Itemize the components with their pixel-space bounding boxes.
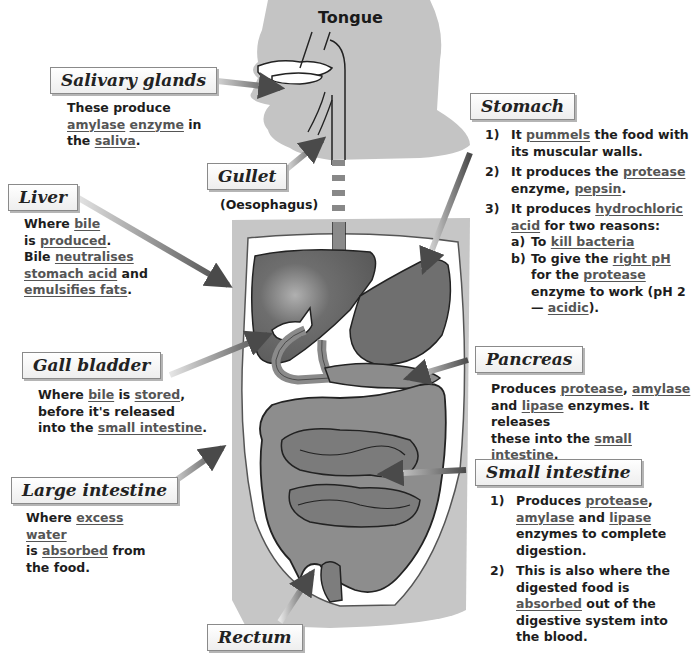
list-item: b)To give the right pH for the protease … <box>511 251 695 317</box>
key-term: produced <box>40 233 106 248</box>
stomach-list: 1)It pummels the food with its muscular … <box>485 127 695 321</box>
key-term: protease <box>585 493 648 508</box>
key-term: saliva <box>95 133 136 148</box>
gullet-subtitle: (Oesophagus) <box>220 197 318 212</box>
key-term: pummels <box>526 127 590 142</box>
pancreas-text: Produces protease, amylaseand lipase enz… <box>491 381 696 464</box>
key-term: absorbed <box>516 596 582 611</box>
key-term: protease <box>623 164 686 179</box>
small-intestine-list: 1)Produces protease, amylase and lipase … <box>490 493 695 650</box>
list-number: 1) <box>490 493 504 510</box>
stomach-label: Stomach <box>470 93 575 120</box>
key-term: absorbed <box>42 543 108 558</box>
list-item: 1)It pummels the food with its muscular … <box>485 127 695 160</box>
gullet-label: Gullet <box>207 163 287 190</box>
small-intestine-label: Small intestine <box>475 459 642 486</box>
list-number: 1) <box>485 127 499 144</box>
key-term: bile <box>74 216 100 231</box>
key-term: amylase <box>516 510 574 525</box>
key-term: enzyme <box>130 117 184 132</box>
key-term: small intestine <box>98 420 203 435</box>
key-term: kill bacteria <box>551 234 635 249</box>
key-term: amylase <box>67 117 125 132</box>
salivary-glands-label: Salivary glands <box>50 67 217 94</box>
key-term: amylase <box>632 381 690 396</box>
key-term: emulsifies fats <box>24 282 127 297</box>
list-item: 3)It produces hydrochloric acid for two … <box>485 201 695 317</box>
list-number: 2) <box>485 164 499 181</box>
key-term: right pH <box>613 251 671 266</box>
key-term: protease <box>560 381 623 396</box>
list-number: b) <box>511 251 526 268</box>
key-term: neutralises <box>55 249 134 264</box>
key-term: bile <box>88 387 114 402</box>
tongue-label: Tongue <box>318 8 383 27</box>
gall-bladder-label: Gall bladder <box>22 352 161 379</box>
key-term: acidic <box>548 300 589 315</box>
list-item: 2)This is also where the digested food i… <box>490 563 695 646</box>
rectum-label: Rectum <box>207 624 303 651</box>
large-intestine-label: Large intestine <box>11 477 178 504</box>
sub-list: a)To kill bacteriab)To give the right pH… <box>511 234 695 317</box>
list-item: 2)It produces the protease enzyme, pepsi… <box>485 164 695 197</box>
tongue-shape <box>272 73 322 84</box>
liver-text: Where bileis produced.Bile neutralisesst… <box>24 216 154 299</box>
list-number: 3) <box>485 201 499 218</box>
key-term: stored <box>135 387 181 402</box>
list-item: 1)Produces protease, amylase and lipase … <box>490 493 695 559</box>
list-item: a)To kill bacteria <box>511 234 695 251</box>
gall-bladder-text: Where bile is stored,before it's release… <box>38 387 208 437</box>
key-term: protease <box>583 267 646 282</box>
key-term: pepsin <box>574 181 621 196</box>
liver-label: Liver <box>8 184 78 211</box>
list-number: a) <box>511 234 525 251</box>
key-term: lipase <box>522 398 564 413</box>
key-term: stomach acid <box>24 266 117 281</box>
salivary-glands-text: These produce amylase enzyme in the sali… <box>67 100 227 150</box>
list-number: 2) <box>490 563 504 580</box>
large-intestine-text: Where excess wateris absorbed fromthe fo… <box>26 510 166 576</box>
key-term: lipase <box>609 510 651 525</box>
pancreas-label: Pancreas <box>475 346 583 373</box>
